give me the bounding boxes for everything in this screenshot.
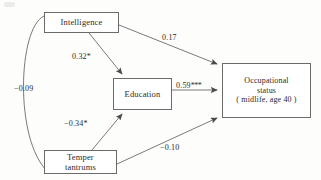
edge-label-temper-education: −0.34* — [64, 119, 87, 128]
edge-label-intel-occ-value: 0.17 — [162, 33, 177, 42]
edge-label-temper-edu-value: −0.34 — [64, 119, 84, 128]
edge-label-education-occupational: 0.59*** — [176, 81, 201, 90]
edge-label-intelligence-occupational: 0.17 — [162, 33, 177, 42]
edge-label-intel-edu-stars: * — [87, 52, 91, 61]
edge-label-intel-edu-value: 0.32 — [72, 52, 87, 61]
node-temper-tantrums-label: Temper tantrums — [65, 152, 96, 172]
edge-label-temper-occupational: −0.10 — [160, 143, 180, 152]
node-intelligence-label: Intelligence — [61, 17, 103, 27]
node-education: Education — [113, 78, 172, 110]
edge-label-temper-occ-value: −0.10 — [160, 143, 180, 152]
edge-label-edu-occ-stars: *** — [191, 81, 202, 90]
node-occupational-status-label: Occupational status ( midlife, age 40 ) — [236, 76, 296, 104]
edge-temper-education — [92, 114, 122, 150]
node-education-label: Education — [125, 89, 161, 99]
edge-label-corr-value: −0.09 — [14, 84, 34, 93]
path-diagram: Intelligence Education Occupational stat… — [0, 0, 321, 180]
node-occupational-status: Occupational status ( midlife, age 40 ) — [222, 63, 311, 118]
edge-label-intelligence-temper-correlation: −0.09 — [14, 84, 34, 93]
edge-intelligence-occupational — [119, 25, 217, 64]
edge-label-edu-occ-value: 0.59 — [176, 81, 191, 90]
edge-intelligence-education — [89, 33, 122, 74]
edge-temper-occupational — [117, 118, 217, 164]
node-temper-tantrums: Temper tantrums — [44, 150, 117, 174]
edge-intelligence-temper-correlation — [24, 16, 49, 172]
edge-label-temper-edu-stars: * — [84, 119, 88, 128]
edge-label-intelligence-education: 0.32* — [72, 52, 90, 61]
node-intelligence: Intelligence — [44, 12, 119, 33]
